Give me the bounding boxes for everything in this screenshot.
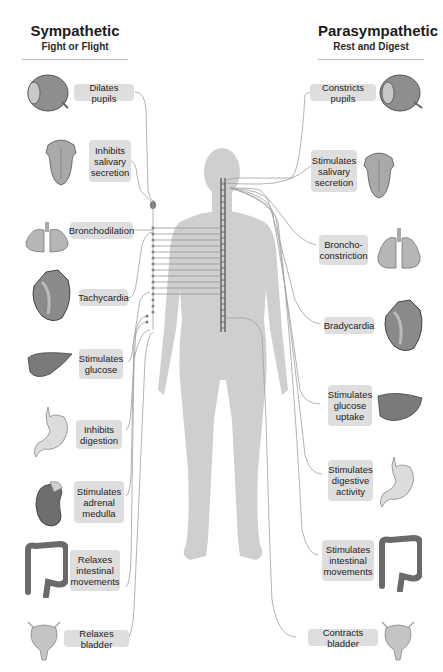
parasympathetic-effect-label: Broncho-constriction	[319, 235, 368, 265]
sympathetic-effect-label: Inhibits salivary secretion	[89, 140, 131, 182]
liver-icon	[26, 350, 74, 380]
intestine-icon	[376, 534, 422, 592]
sympathetic-effect-label: Stimulates glucose	[79, 349, 123, 379]
kidney-icon	[34, 480, 66, 530]
tongue-icon	[42, 135, 80, 187]
eye-icon	[22, 72, 70, 114]
sympathetic-ganglia	[146, 201, 157, 324]
intestine-icon	[22, 540, 68, 598]
sympathetic-effect-label: Stimulates adrenal medulla	[74, 481, 124, 523]
parasympathetic-effect-label: Constricts pupils	[310, 84, 376, 101]
sympathetic-effect-label: Dilates pupils	[74, 84, 134, 101]
sympathetic-effect-label: Relaxes intestinal movements	[70, 550, 120, 591]
sympathetic-effect-label: Relaxes bladder	[64, 630, 129, 647]
lungs-icon	[374, 228, 424, 272]
tongue-icon	[360, 148, 398, 200]
sympathetic-effect-label: Inhibits digestion	[76, 420, 122, 449]
parasympathetic-effect-label: Stimulates digestive activity	[328, 460, 373, 501]
parasympathetic-effect-label: Bradycardia	[324, 317, 374, 334]
parasympathetic-effect-label: Stimulates salivary secretion	[311, 150, 357, 192]
parasympathetic-effect-label: Contracts bladder	[308, 629, 378, 646]
eye-icon	[378, 72, 426, 114]
heart-icon	[28, 268, 76, 324]
stomach-icon	[378, 455, 418, 510]
heart-icon	[380, 298, 428, 354]
bladder-icon	[24, 618, 64, 662]
sympathetic-effect-label: Tachycardia	[79, 289, 128, 306]
lungs-icon	[22, 222, 72, 254]
stomach-icon	[32, 405, 72, 460]
bladder-icon	[378, 618, 418, 662]
sympathetic-effect-label: Bronchodilation	[70, 222, 133, 239]
parasympathetic-effect-label: Stimulates intestinal movements	[322, 540, 374, 581]
parasympathetic-effect-label: Stimulates glucose uptake	[328, 385, 372, 426]
liver-icon	[376, 390, 424, 424]
